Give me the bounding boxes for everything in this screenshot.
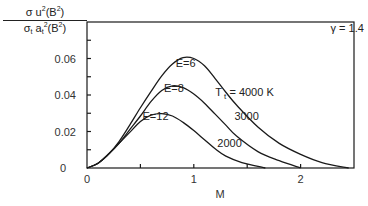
annotation-4: T t = 4000 K xyxy=(215,86,274,101)
chart-annotations: γ = 1.4E=6E=8E=12T t = 4000 K30002000 xyxy=(143,22,364,149)
annotation-2: E=8 xyxy=(164,82,184,94)
annotation-6: 2000 xyxy=(217,137,241,149)
y-tick-label: 0.06 xyxy=(55,53,76,65)
y-tick-label: 0 xyxy=(60,162,66,174)
x-tick-label: 0 xyxy=(84,173,90,185)
chart-curves xyxy=(87,57,349,168)
y-tick-label: 0.02 xyxy=(55,126,76,138)
annotation-5: 3000 xyxy=(234,110,258,122)
annotation-1: E=6 xyxy=(176,57,196,69)
y-axis-ticks: 00.020.040.06 xyxy=(55,40,91,174)
x-axis-ticks: 012 xyxy=(84,164,304,185)
line-chart: 00.020.040.06 012 M γ = 1.4E=6E=8E=12T t… xyxy=(0,0,368,206)
x-axis-label: M xyxy=(215,188,224,200)
annotation-3: E=12 xyxy=(143,110,169,122)
x-tick-label: 2 xyxy=(298,173,304,185)
y-tick-label: 0.04 xyxy=(55,89,76,101)
x-tick-label: 1 xyxy=(191,173,197,185)
annotation-0: γ = 1.4 xyxy=(331,22,364,34)
curve-series-1 xyxy=(87,86,301,168)
